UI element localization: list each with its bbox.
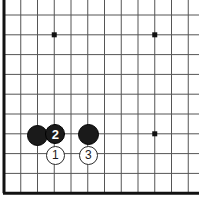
star-point-lower-right [152,131,157,136]
star-point-upper-right [152,32,157,37]
go-board-diagram: 213 [0,0,199,201]
board-grid [0,0,199,201]
star-point-upper-left [52,32,57,37]
